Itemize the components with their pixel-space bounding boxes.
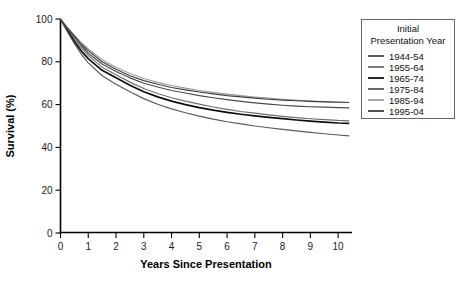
survival-chart-figure: 020406080100 012345678910 Years Since Pr… (0, 0, 462, 285)
legend-label-1975-84: 1975-84 (389, 84, 424, 95)
x-tick-label: 0 (58, 241, 64, 252)
legend-label-1965-74: 1965-74 (389, 73, 424, 84)
legend-title-line2: Presentation Year (370, 35, 445, 46)
y-tick-label: 0 (47, 228, 53, 239)
legend-label-1955-64: 1955-64 (389, 62, 424, 73)
y-tick-label: 80 (41, 56, 53, 67)
legend-label-1944-54: 1944-54 (389, 51, 424, 62)
x-tick-label: 6 (224, 241, 230, 252)
x-tick-label: 2 (113, 241, 119, 252)
y-tick-label: 60 (41, 99, 53, 110)
x-tick-label: 3 (141, 241, 147, 252)
x-tick-label: 5 (197, 241, 203, 252)
legend[interactable]: Initial Presentation Year 1944-541955-64… (362, 20, 455, 119)
legend-label-1985-94: 1985-94 (389, 95, 424, 106)
x-tick-label: 7 (252, 241, 258, 252)
x-tick-label: 9 (308, 241, 314, 252)
legend-label-1995-04: 1995-04 (389, 106, 424, 117)
y-tick-label: 100 (36, 14, 53, 25)
y-tick-label: 20 (41, 185, 53, 196)
legend-title-line1: Initial (397, 23, 419, 34)
x-axis-title: Years Since Presentation (140, 258, 272, 270)
x-tick-label: 8 (280, 241, 286, 252)
x-tick-label: 4 (169, 241, 175, 252)
x-tick-label: 1 (85, 241, 91, 252)
y-axis-title: Survival (%) (4, 94, 16, 157)
x-tick-label: 10 (333, 241, 345, 252)
chart-canvas: 020406080100 012345678910 Years Since Pr… (0, 0, 462, 285)
y-tick-label: 40 (41, 142, 53, 153)
